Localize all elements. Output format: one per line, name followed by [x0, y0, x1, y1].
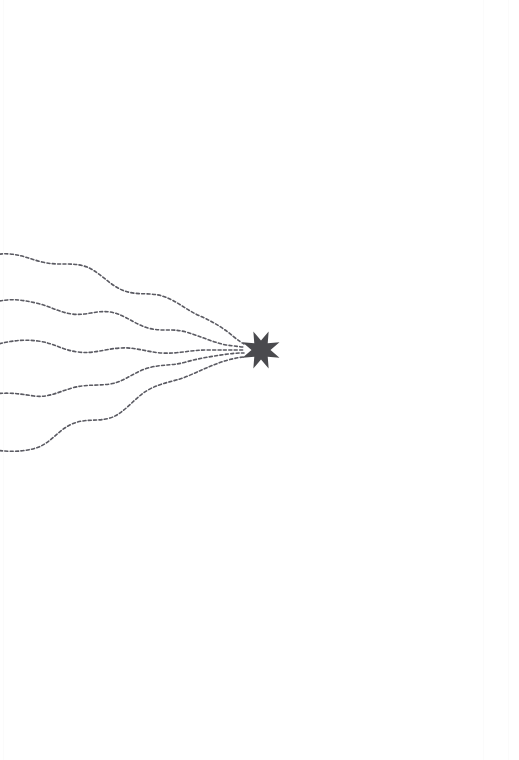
- eight-pointed-star-icon: [243, 332, 280, 369]
- wave-trail-group: [0, 254, 244, 452]
- illustration-canvas: [0, 0, 519, 760]
- wave-trail-5: [0, 357, 244, 451]
- wave-trail-1: [0, 254, 244, 344]
- wave-trail-4: [0, 353, 244, 396]
- star-group: [243, 332, 280, 369]
- wave-trail-3: [0, 340, 244, 353]
- wave-trail-2: [0, 300, 244, 347]
- artwork-svg: [0, 0, 519, 760]
